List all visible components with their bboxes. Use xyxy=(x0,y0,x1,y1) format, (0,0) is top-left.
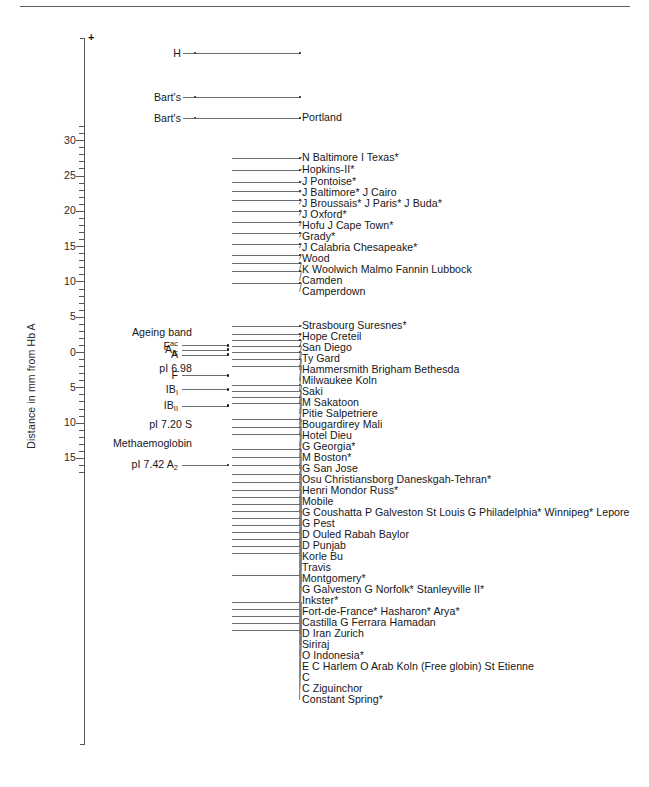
band-label: Constant Spring* xyxy=(302,694,383,705)
band-endpoint-dot xyxy=(299,96,302,99)
band-label-left: H xyxy=(95,47,181,59)
axis-tick-minor xyxy=(79,373,85,374)
axis-tick-minor xyxy=(79,274,85,275)
band-line xyxy=(232,427,300,428)
band-label: Camperdown xyxy=(302,286,366,297)
band-line xyxy=(232,465,300,466)
axis-tick-minor xyxy=(79,310,85,311)
axis-tick-minor xyxy=(79,218,85,219)
axis-marker-label: IBI xyxy=(92,383,178,397)
axis-tick-label-wrap: 5 xyxy=(32,381,76,393)
axis-tick-minor xyxy=(79,126,85,127)
band-line xyxy=(232,191,300,192)
axis-tick-minor xyxy=(79,345,85,346)
axis-marker-dot xyxy=(227,374,230,377)
axis-tick-major xyxy=(76,176,85,177)
band-line xyxy=(195,97,300,98)
axis-marker-label: Methaemoglobin xyxy=(92,437,192,449)
axis-tick-minor xyxy=(79,324,85,325)
band-line xyxy=(232,385,300,386)
band-endpoint-dot xyxy=(299,52,302,55)
axis-tick-minor xyxy=(79,161,85,162)
axis-marker-label: F xyxy=(92,369,178,381)
axis-tick-label: 20 xyxy=(42,204,76,216)
band-line xyxy=(232,200,300,201)
band-line xyxy=(232,539,300,540)
axis-tick-minor xyxy=(79,430,85,431)
axis-tick-major xyxy=(76,317,85,318)
axis-tick-minor xyxy=(79,303,85,304)
axis-marker-stem xyxy=(182,350,228,351)
band-line xyxy=(232,546,300,547)
axis-tick-label-wrap: 10 xyxy=(32,416,76,428)
axis-tick-minor xyxy=(79,239,85,240)
axis-marker-label: pI 7.42 A2 xyxy=(92,458,178,472)
band-line xyxy=(232,391,300,392)
band-line xyxy=(232,518,300,519)
axis-tick-label: 25 xyxy=(42,169,76,181)
band-line xyxy=(232,449,300,450)
axis-tick-minor xyxy=(79,451,85,452)
band-line xyxy=(232,255,300,256)
axis-marker-stem xyxy=(182,345,228,346)
axis-tick-label: 10 xyxy=(42,275,76,287)
axis-tick-major xyxy=(76,281,85,282)
y-axis-top-cap xyxy=(80,38,85,39)
axis-tick-minor xyxy=(79,366,85,367)
axis-marker-dot xyxy=(227,348,230,351)
axis-tick-label-wrap: 5 xyxy=(32,310,76,322)
axis-tick-minor xyxy=(79,197,85,198)
axis-tick-minor xyxy=(79,154,85,155)
band-line xyxy=(232,434,300,435)
band-line xyxy=(232,340,300,341)
axis-tick-label-wrap: 15 xyxy=(32,451,76,463)
band-line xyxy=(232,602,300,603)
band-leader-line xyxy=(300,325,302,326)
axis-tick-minor xyxy=(79,331,85,332)
axis-tick-minor xyxy=(79,260,85,261)
top-rule xyxy=(20,6,630,7)
polarity-plus-icon: + xyxy=(88,31,94,43)
axis-tick-label-wrap: 20 xyxy=(32,204,76,216)
band-label: Hopkins-II* xyxy=(302,164,354,175)
band-line xyxy=(232,397,300,398)
axis-tick-label: 10 xyxy=(42,416,76,428)
axis-tick-major xyxy=(76,423,85,424)
axis-tick-label-wrap: 10 xyxy=(32,275,76,287)
axis-tick-minor xyxy=(79,444,85,445)
band-line xyxy=(232,482,300,483)
band-line xyxy=(232,504,300,505)
band-line xyxy=(232,457,300,458)
axis-tick-label: 0 xyxy=(42,346,76,358)
band-line xyxy=(232,532,300,533)
band-label-left: Bart's xyxy=(95,91,181,103)
band-line xyxy=(232,366,300,367)
band-label: G Coushatta P Galveston St Louis G Phila… xyxy=(302,507,630,518)
axis-tick-minor xyxy=(79,147,85,148)
band-line xyxy=(232,553,300,554)
axis-tick-minor xyxy=(79,225,85,226)
axis-marker-dot xyxy=(227,388,230,391)
band-label: N Baltimore I Texas* xyxy=(302,152,399,163)
axis-tick-minor xyxy=(79,338,85,339)
band-line xyxy=(232,211,300,212)
axis-tick-minor xyxy=(79,416,85,417)
band-line xyxy=(232,623,300,624)
band-line xyxy=(232,283,300,284)
axis-marker-label: pI 7.20 S xyxy=(92,418,192,430)
axis-marker-dot xyxy=(227,404,230,407)
band-line xyxy=(232,346,300,347)
axis-tick-minor xyxy=(79,409,85,410)
axis-marker-label: A xyxy=(92,348,178,360)
axis-tick-minor xyxy=(79,168,85,169)
band-line xyxy=(232,609,300,610)
axis-tick-major xyxy=(76,352,85,353)
band-line xyxy=(195,118,300,119)
axis-marker-stem xyxy=(182,406,228,407)
axis-marker-label: IBII xyxy=(92,399,178,413)
axis-marker-label: Ageing band xyxy=(92,326,192,338)
axis-tick-label: 30 xyxy=(42,134,76,146)
axis-marker-stem xyxy=(182,389,228,390)
axis-tick-label-wrap: 25 xyxy=(32,169,76,181)
band-line xyxy=(232,352,300,353)
